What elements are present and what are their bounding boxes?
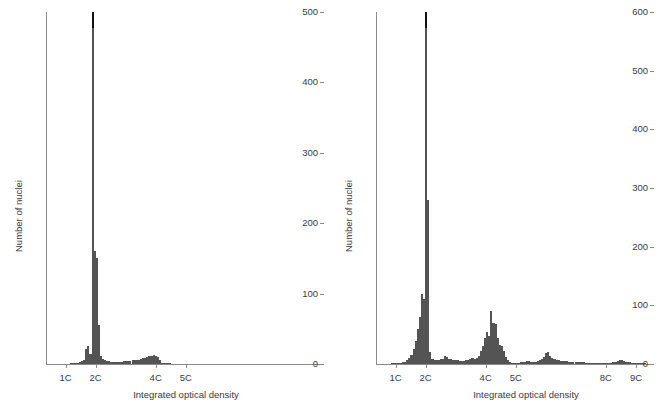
y-axis-tick-label: 0 bbox=[313, 359, 318, 369]
y-axis-tick bbox=[320, 294, 324, 295]
x-axis-tick-label: 5C bbox=[180, 373, 192, 383]
x-axis-tick bbox=[606, 364, 607, 368]
x-axis-tick-label: 5C bbox=[510, 373, 522, 383]
y-axis-tick-label: 100 bbox=[632, 301, 648, 311]
y-axis-tick bbox=[320, 153, 324, 154]
x-axis-tick bbox=[186, 364, 187, 368]
y-axis-tick bbox=[650, 129, 654, 130]
x-axis-tick bbox=[156, 364, 157, 368]
x-axis-tick-label: 1C bbox=[389, 373, 401, 383]
y-axis-tick bbox=[320, 12, 324, 13]
x-axis-tick-label: 2C bbox=[90, 373, 102, 383]
x-axis-tick bbox=[486, 364, 487, 368]
x-axis-tick bbox=[516, 364, 517, 368]
y-axis-tick-label: 500 bbox=[302, 7, 318, 17]
x-axis-tick-label: 4C bbox=[150, 373, 162, 383]
y-axis-tick-label: 500 bbox=[632, 66, 648, 76]
histogram-panel-left: 0100200300400500 1C2C4C5C Integrated opt… bbox=[0, 0, 330, 408]
y-axis-title-left: Number of nuclei bbox=[14, 180, 24, 252]
histogram-bar bbox=[427, 200, 429, 364]
plot-area-right: 0100200300400500600 1C2C4C5C8C9C bbox=[376, 12, 654, 364]
x-axis-tick-label: 9C bbox=[630, 373, 642, 383]
x-axis-tick-label: 1C bbox=[59, 373, 71, 383]
histogram-panel-right: 0100200300400500600 1C2C4C5C8C9C Integra… bbox=[330, 0, 660, 408]
y-axis-tick bbox=[650, 71, 654, 72]
x-axis-tick-label: 2C bbox=[420, 373, 432, 383]
x-axis-tick bbox=[66, 364, 67, 368]
y-axis-tick bbox=[320, 82, 324, 83]
x-axis-tick-label: 8C bbox=[600, 373, 612, 383]
y-axis-tick-label: 400 bbox=[302, 78, 318, 88]
y-axis-tick-label: 0 bbox=[643, 359, 648, 369]
x-axis-tick bbox=[426, 364, 427, 368]
x-axis-title-right: Integrated optical density bbox=[473, 390, 579, 400]
y-axis-tick bbox=[650, 247, 654, 248]
x-axis-tick bbox=[636, 364, 637, 368]
y-axis-tick bbox=[650, 12, 654, 13]
y-axis-tick bbox=[650, 188, 654, 189]
y-axis-tick bbox=[650, 364, 654, 365]
y-axis-tick-label: 300 bbox=[302, 148, 318, 158]
y-axis-tick bbox=[320, 364, 324, 365]
y-axis-tick-label: 100 bbox=[302, 289, 318, 299]
y-axis-tick-label: 200 bbox=[632, 242, 648, 252]
y-axis-tick-label: 600 bbox=[632, 7, 648, 17]
y-axis-title-right: Number of nuclei bbox=[344, 180, 354, 252]
histogram-bars-right bbox=[376, 12, 654, 364]
x-axis-title-left: Integrated optical density bbox=[133, 390, 239, 400]
figure-canvas: 0100200300400500 1C2C4C5C Integrated opt… bbox=[0, 0, 660, 408]
plot-area-left: 0100200300400500 1C2C4C5C bbox=[46, 12, 324, 364]
histogram-bars-left bbox=[46, 12, 324, 364]
histogram-bar bbox=[169, 363, 171, 364]
x-axis-tick bbox=[96, 364, 97, 368]
y-axis-tick-label: 200 bbox=[302, 218, 318, 228]
y-axis-tick bbox=[650, 305, 654, 306]
x-axis-tick bbox=[396, 364, 397, 368]
y-axis-tick-label: 400 bbox=[632, 125, 648, 135]
y-axis-tick-label: 300 bbox=[632, 183, 648, 193]
x-axis-tick-label: 4C bbox=[480, 373, 492, 383]
y-axis-tick bbox=[320, 223, 324, 224]
